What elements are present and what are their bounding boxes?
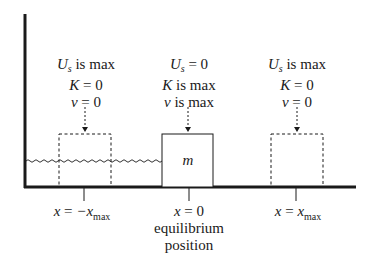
potential-energy-line: Us is max (268, 56, 326, 77)
kinetic-energy-line: K is max (162, 77, 215, 94)
potential-energy-line: Us is max (57, 56, 115, 77)
spring (26, 160, 162, 163)
velocity-line: v = 0 (57, 94, 115, 111)
kinetic-energy-line: K = 0 (268, 77, 326, 94)
equilibrium-caption: equilibrium (154, 220, 224, 237)
position-caption: position (154, 237, 224, 254)
velocity-line: v = 0 (268, 94, 326, 111)
position-label-right: x = xmax (275, 203, 322, 225)
position-label-center: x = 0 equilibrium position (154, 203, 224, 254)
energy-label-right: Us is max K = 0 v = 0 (268, 56, 326, 111)
energy-label-center: Us = 0 K is max v is max (162, 56, 215, 111)
velocity-line: v is max (162, 94, 215, 111)
mass-ghost-right (271, 134, 323, 187)
mass-label: m (183, 152, 194, 169)
potential-energy-line: Us = 0 (162, 56, 215, 77)
position-label-left: x = −xmax (54, 203, 111, 225)
kinetic-energy-line: K = 0 (57, 77, 115, 94)
energy-label-left: Us is max K = 0 v = 0 (57, 56, 115, 111)
